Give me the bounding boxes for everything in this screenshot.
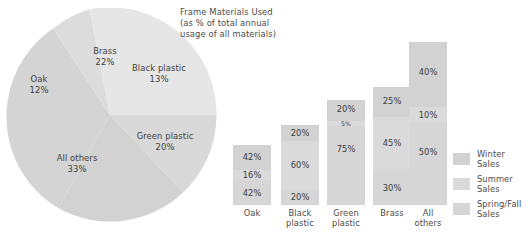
chart-title: Frame Materials Used (as % of total annu… xyxy=(180,7,330,40)
bar-brass: 25% 45% 30% xyxy=(373,87,411,205)
bar-green-plastic: 20% 5% 75% xyxy=(327,100,365,205)
bar-all-others-summer-value: 10% xyxy=(409,110,447,120)
bar-brass-segment-winter: 25% xyxy=(373,87,411,117)
bar-green-plastic-springfall-value: 75% xyxy=(327,144,365,154)
legend-label-spring-fall-sales: Spring/Fall Sales xyxy=(477,199,521,220)
pie-label-oak: Oak 12% xyxy=(11,74,67,95)
bar-all-others-segment-summer: 10% xyxy=(409,107,447,123)
pie-label-all-others: All others 33% xyxy=(33,153,121,174)
bar-oak-segment-springfall: 42% xyxy=(233,180,271,205)
bar-black-plastic: 20% 60% 20% xyxy=(281,125,319,205)
pie-label-black-plastic: Black plastic 13% xyxy=(111,63,207,84)
pie-chart: Brass 22% Oak 12% Black plastic 13% Gree… xyxy=(3,8,217,222)
bar-oak-winter-value: 42% xyxy=(233,152,271,162)
bar-all-others: 40% 10% 50% xyxy=(409,42,447,205)
bar-all-others-springfall-value: 50% xyxy=(409,147,447,157)
bar-oak-springfall-value: 42% xyxy=(233,188,271,198)
bar-brass-segment-springfall: 30% xyxy=(373,170,411,205)
bar-brass-springfall-value: 30% xyxy=(373,183,411,193)
bar-black-plastic-springfall-value: 20% xyxy=(281,192,319,202)
bar-all-others-winter-value: 40% xyxy=(409,67,447,77)
bar-green-plastic-winter-value: 20% xyxy=(327,104,365,114)
legend-swatch-summer-sales xyxy=(453,178,470,190)
bar-green-plastic-segment-winter: 20% xyxy=(327,100,365,121)
bar-oak-segment-winter: 42% xyxy=(233,145,271,170)
figure-stacked-bar-and-pie: Brass 22% Oak 12% Black plastic 13% Gree… xyxy=(0,0,531,237)
bar-oak-segment-summer: 16% xyxy=(233,170,271,180)
bar-black-plastic-summer-value: 60% xyxy=(281,160,319,170)
bar-category-label-all-others: All others xyxy=(404,208,452,229)
bar-brass-summer-value: 45% xyxy=(373,138,411,148)
pie-chart-svg xyxy=(3,8,217,222)
bar-category-label-green-plastic: Green plastic xyxy=(322,208,370,229)
bar-brass-winter-value: 25% xyxy=(373,96,411,106)
bar-all-others-segment-springfall: 50% xyxy=(409,123,447,205)
pie-label-green-plastic: Green plastic 20% xyxy=(117,131,213,152)
bar-black-plastic-segment-summer: 60% xyxy=(281,141,319,189)
bar-all-others-segment-winter: 40% xyxy=(409,42,447,107)
legend-swatch-spring-fall-sales xyxy=(453,203,470,215)
bar-green-plastic-segment-springfall: 75% xyxy=(327,126,365,205)
legend-label-summer-sales: Summer Sales xyxy=(477,174,513,195)
bar-black-plastic-segment-springfall: 20% xyxy=(281,189,319,205)
bar-black-plastic-segment-winter: 20% xyxy=(281,125,319,141)
legend-swatch-winter-sales xyxy=(453,153,470,165)
bar-brass-segment-summer: 45% xyxy=(373,117,411,170)
bar-black-plastic-winter-value: 20% xyxy=(281,128,319,138)
bar-oak: 42% 16% 42% xyxy=(233,145,271,205)
legend-label-winter-sales: Winter Sales xyxy=(477,149,505,170)
bar-category-label-oak: Oak xyxy=(228,208,276,218)
bar-category-label-black-plastic: Black plastic xyxy=(276,208,324,229)
bar-oak-summer-value: 16% xyxy=(233,170,271,180)
